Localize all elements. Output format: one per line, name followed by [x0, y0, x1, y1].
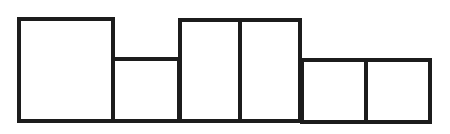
diagram-canvas [0, 0, 450, 134]
box-2 [113, 59, 179, 121]
box-4 [240, 20, 300, 121]
box-6 [366, 60, 430, 122]
box-1 [19, 19, 113, 121]
box-3 [180, 20, 240, 121]
box-5 [302, 60, 366, 122]
